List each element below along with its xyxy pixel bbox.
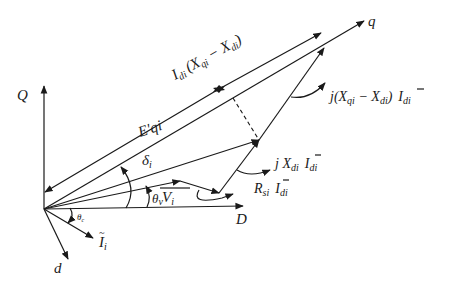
delta-arc	[121, 167, 131, 208]
projection-dashed	[233, 98, 259, 140]
label-jxd: j XdiIdi	[273, 156, 317, 173]
resistive-drop	[180, 181, 219, 193]
leader-jxdiff	[291, 83, 325, 97]
reactive-drop	[219, 140, 259, 193]
label-d: d	[54, 260, 62, 276]
d-axis-horizontal	[44, 206, 243, 209]
label-D: D	[235, 211, 247, 227]
e-qi-prime-line	[45, 89, 219, 192]
theta-v-arc	[146, 186, 149, 207]
tilde-i-i: ~	[99, 227, 105, 238]
label-delta: δi	[142, 152, 152, 170]
label-v-i: Vi	[162, 189, 174, 207]
label-theta-c: θc	[77, 212, 84, 223]
label-jx-diff: j(Xqi − Xdi)Idi	[328, 89, 411, 106]
label-Q: Q	[17, 87, 28, 103]
theta-c-arc	[68, 208, 72, 223]
label-idi-xq-xd: Idi(Xqi − Xdi)	[168, 31, 245, 85]
label-q: q	[368, 13, 376, 29]
label-e-qi-prime: E'qi	[135, 117, 164, 140]
leader-jxd	[237, 170, 270, 174]
label-rs: RsiIdi	[253, 181, 288, 198]
phasor-diagram: Q D q d E'qi Idi(Xqi − Xdi) j(Xqi − Xdi)…	[0, 0, 453, 286]
